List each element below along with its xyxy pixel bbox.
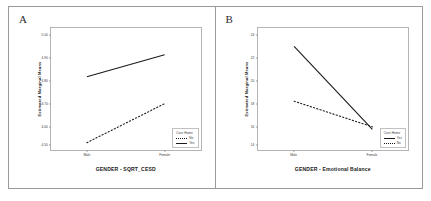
panel-a-y-axis-title: Estimated Marginal Means — [33, 27, 45, 151]
panel-b-letter: B — [226, 13, 234, 25]
panel-b-legend-title: Care Home — [384, 131, 402, 135]
solid-line-icon — [176, 143, 187, 144]
panel-b-plot-area: 24 22 20 18 16 14 Male Female Care Home — [257, 27, 410, 151]
dotted-line-icon — [384, 143, 395, 144]
panel-b-ytick-3: 18 — [251, 102, 258, 106]
panel-a-ytick-4: 4.60 — [41, 125, 51, 129]
panel-b-ytick-5: 14 — [251, 143, 258, 147]
panel-b-y-axis-title: Estimated Marginal Means — [240, 27, 252, 151]
panel-b: B Estimated Marginal Means 24 22 20 18 1… — [216, 7, 423, 188]
panel-a-ytick-2: 4.80 — [41, 79, 51, 83]
panel-b-ytick-0: 24 — [251, 33, 258, 37]
panel-a-legend-item-yes: Yes — [176, 141, 194, 145]
panel-a-xtick-female: Female — [159, 150, 170, 157]
panel-a-ytick-3: 4.70 — [41, 102, 51, 106]
panel-b-legend-item-no: No — [384, 141, 402, 145]
panel-a-y-axis-title-text: Estimated Marginal Means — [37, 61, 42, 116]
panel-b-xtick-female: Female — [367, 150, 378, 157]
panel-a-ytick-1: 4.90 — [41, 56, 51, 60]
panel-b-legend: Care Home Yes No — [380, 128, 406, 149]
panel-a-ytick-5: 4.50 — [41, 143, 51, 147]
panel-a-legend-title: Care Home — [176, 131, 194, 135]
panel-a-ytick-0: 5.00 — [41, 33, 51, 37]
panel-a-letter: A — [19, 13, 27, 25]
panel-a-xtick-male: Male — [83, 150, 90, 157]
panel-a-plot-area: 5.00 4.90 4.80 4.70 4.60 4.50 Male Femal… — [50, 27, 202, 151]
dotted-line-icon — [176, 138, 187, 139]
panel-b-ytick-1: 22 — [251, 56, 258, 60]
panel-a-series-yes-line — [87, 55, 165, 77]
figure-container: A Estimated Marginal Means 5.00 4.90 4.8… — [8, 6, 423, 189]
panel-a-legend-label-no: No — [189, 136, 193, 140]
panel-a-series-no-line — [87, 104, 165, 143]
panel-b-y-axis-title-text: Estimated Marginal Means — [243, 61, 248, 116]
panel-b-x-axis-title: GENDER - Emotional Balance — [257, 166, 410, 172]
panel-a: A Estimated Marginal Means 5.00 4.90 4.8… — [9, 7, 216, 188]
solid-line-icon — [384, 138, 395, 139]
panel-b-legend-label-no: No — [397, 141, 401, 145]
panel-b-series-yes-line — [294, 46, 372, 129]
panel-a-x-axis-title: GENDER - SQRT_CESD — [50, 166, 202, 172]
panel-b-series-no-line — [294, 101, 372, 127]
panel-a-legend: Care Home No Yes — [172, 128, 198, 149]
panel-a-legend-label-yes: Yes — [189, 141, 194, 145]
panel-b-xtick-male: Male — [290, 150, 297, 157]
panel-a-legend-item-no: No — [176, 136, 194, 140]
panel-b-legend-item-yes: Yes — [384, 136, 402, 140]
panel-b-ytick-4: 16 — [251, 125, 258, 129]
panel-b-legend-label-yes: Yes — [397, 136, 402, 140]
panel-b-ytick-2: 20 — [251, 79, 258, 83]
